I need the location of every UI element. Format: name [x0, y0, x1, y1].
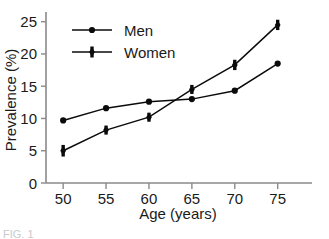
- data-point-marker: [232, 88, 238, 94]
- x-tick-label: 55: [98, 190, 115, 207]
- y-axis-title: Prevalence (%): [2, 49, 19, 152]
- legend-label: Women: [124, 44, 175, 61]
- y-tick-label: 15: [20, 78, 37, 95]
- figure-caption: FIG. 1: [3, 230, 34, 239]
- figure-container: 0510152025 505560657075 Prevalence (%) A…: [0, 0, 329, 239]
- y-tick-label: 25: [20, 13, 37, 30]
- legend-label: Men: [124, 22, 153, 39]
- y-tick-label: 10: [20, 110, 37, 127]
- x-tick-label: 70: [226, 190, 243, 207]
- prevalence-by-age-line-chart: 0510152025 505560657075 Prevalence (%) A…: [0, 0, 329, 239]
- y-tick-label: 5: [29, 142, 37, 159]
- x-axis-title: Age (years): [139, 205, 217, 222]
- data-point-marker: [60, 117, 66, 123]
- data-point-marker: [189, 96, 195, 102]
- x-tick-label: 75: [269, 190, 286, 207]
- figure-caption-strip: FIG. 1: [0, 230, 329, 239]
- data-point-marker: [146, 99, 152, 105]
- y-tick-label: 20: [20, 45, 37, 62]
- legend-marker: [89, 27, 95, 33]
- data-point-marker: [103, 105, 109, 111]
- x-tick-label: 50: [55, 190, 72, 207]
- data-point-marker: [275, 61, 281, 67]
- y-tick-label: 0: [29, 175, 37, 192]
